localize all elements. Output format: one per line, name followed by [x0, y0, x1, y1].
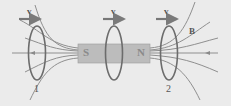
south-pole-label: S [83, 46, 89, 58]
loop-1-label: 1 [34, 83, 39, 94]
field-label: B [189, 26, 195, 36]
velocity-label-3: v [164, 6, 169, 16]
loop-2-label: 2 [166, 83, 171, 94]
velocity-label-1: v [27, 6, 32, 16]
north-pole-label: N [137, 46, 145, 58]
velocity-label-2: v [111, 6, 116, 16]
